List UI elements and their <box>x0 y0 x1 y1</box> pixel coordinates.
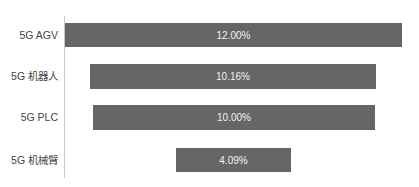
bar-5g-plc: 10.00% <box>93 105 375 130</box>
category-label: 5G PLC <box>0 105 58 129</box>
category-label: 5G AGV <box>0 23 58 47</box>
value-label: 10.00% <box>217 112 251 123</box>
value-label: 12.00% <box>217 30 251 41</box>
bar-5g-robotic-arm: 4.09% <box>176 148 291 172</box>
category-label: 5G 机器人 <box>0 64 58 88</box>
bar-5g-robot: 10.16% <box>90 64 376 89</box>
bar-5g-agv: 12.00% <box>65 23 402 47</box>
value-label: 4.09% <box>219 155 247 166</box>
value-label: 10.16% <box>216 71 250 82</box>
category-label: 5G 机械臂 <box>0 148 58 172</box>
